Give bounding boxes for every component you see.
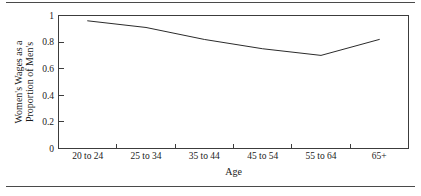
y-axis-title: Women's Wages as a Proportion of Men's: [13, 40, 35, 124]
x-tick-label: 65+: [372, 151, 387, 161]
x-tick-marks: [59, 144, 409, 149]
x-tick-label: 20 to 24: [72, 151, 103, 161]
y-tick-label: 1: [49, 11, 54, 21]
y-tick-label: 0.4: [42, 91, 54, 101]
y-axis-title-line2: Proportion of Men's: [24, 42, 35, 122]
x-tick-label: 25 to 34: [130, 151, 161, 161]
y-axis-tick-labels: 0 0.2 0.4 0.6 0.8 1: [42, 11, 54, 154]
x-tick-label: 55 to 64: [305, 151, 336, 161]
line-chart: 0 0.2 0.4 0.6 0.8 1 20 to 24 25 to 34: [0, 0, 421, 196]
x-tick-label: 35 to 44: [189, 151, 220, 161]
x-tick-label: 45 to 54: [247, 151, 278, 161]
y-tick-label: 0.6: [42, 64, 54, 74]
y-tick-marks: [59, 16, 64, 149]
y-axis-title-line1: Women's Wages as a: [13, 40, 24, 124]
data-series-line: [88, 21, 380, 56]
y-tick-label: 0.8: [42, 37, 54, 47]
figure-container: 0 0.2 0.4 0.6 0.8 1 20 to 24 25 to 34: [0, 0, 421, 196]
x-axis-title: Age: [225, 166, 242, 177]
plot-frame: [59, 16, 409, 149]
x-axis-tick-labels: 20 to 24 25 to 34 35 to 44 45 to 54 55 t…: [72, 151, 387, 161]
y-tick-label: 0.2: [42, 117, 54, 127]
y-tick-label: 0: [49, 144, 54, 154]
